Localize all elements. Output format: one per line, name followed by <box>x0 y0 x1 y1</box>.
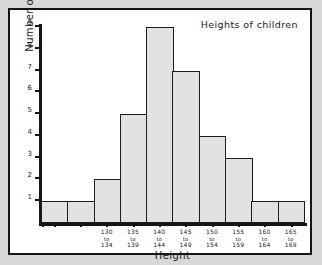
x-label-4: 140to144 <box>146 229 172 249</box>
y-tick-6: 6 <box>35 90 40 92</box>
y-tick-label-9: 9 <box>28 19 32 28</box>
y-tick-2: 2 <box>35 177 40 179</box>
y-tick-9: 9 <box>35 25 40 27</box>
bar-6[interactable] <box>199 136 227 223</box>
x-tick-6 <box>212 222 214 227</box>
x-tick-5 <box>185 222 187 227</box>
y-tick-label-4: 4 <box>28 128 32 137</box>
y-tick-8: 8 <box>35 47 40 49</box>
bar-0[interactable] <box>41 201 69 223</box>
x-axis-title: Height <box>41 250 304 261</box>
x-tick-label-group: 130to134135to139140to144145to149150to154… <box>41 229 304 249</box>
y-tick-4: 4 <box>35 134 40 136</box>
y-tick-label-3: 3 <box>28 150 32 159</box>
x-tick-origin <box>42 222 44 227</box>
y-tick-label-7: 7 <box>28 63 32 72</box>
x-tick-8 <box>264 222 266 227</box>
x-tick-3 <box>133 222 135 227</box>
x-label-2: 130to134 <box>94 229 120 249</box>
x-label-1 <box>67 229 93 249</box>
bar-3[interactable] <box>120 114 148 223</box>
x-label-5: 145to149 <box>172 229 198 249</box>
bar-8[interactable] <box>251 201 279 223</box>
bar-5[interactable] <box>172 71 200 223</box>
y-tick-1: 1 <box>35 199 40 201</box>
x-label-0 <box>41 229 67 249</box>
x-tick-2 <box>106 222 108 227</box>
y-tick-3: 3 <box>35 156 40 158</box>
x-label-9: 165to169 <box>278 229 304 249</box>
x-label-3: 135to139 <box>120 229 146 249</box>
x-tick-1 <box>80 222 82 227</box>
chart-frame: Heights of children Number of children 1… <box>8 8 312 255</box>
bar-4[interactable] <box>146 27 174 223</box>
y-tick-label-5: 5 <box>28 106 32 115</box>
x-tick-9 <box>291 222 293 227</box>
x-label-8: 160to164 <box>251 229 277 249</box>
y-tick-5: 5 <box>35 112 40 114</box>
y-tick-label-1: 1 <box>28 193 32 202</box>
bar-9[interactable] <box>278 201 306 223</box>
x-label-7: 155to159 <box>225 229 251 249</box>
bar-7[interactable] <box>225 158 253 223</box>
bar-2[interactable] <box>94 179 122 223</box>
y-tick-label-8: 8 <box>28 41 32 50</box>
x-label-6: 150to154 <box>199 229 225 249</box>
plot-area: 123456789 130to134135to139140to144145to1… <box>41 27 304 223</box>
histogram-figure: Heights of children Number of children 1… <box>0 0 322 265</box>
bar-1[interactable] <box>67 201 95 223</box>
x-tick-0 <box>54 222 56 227</box>
x-tick-7 <box>238 222 240 227</box>
y-axis-title: Number of children <box>24 0 35 60</box>
bar-group <box>41 27 304 223</box>
y-tick-7: 7 <box>35 69 40 71</box>
y-tick-label-6: 6 <box>28 84 32 93</box>
y-tick-label-2: 2 <box>28 171 32 180</box>
x-tick-4 <box>159 222 161 227</box>
